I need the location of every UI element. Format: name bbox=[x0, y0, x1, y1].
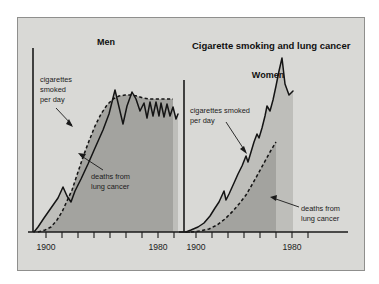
men-cigarettes-label-line2: smoked bbox=[40, 85, 66, 94]
women-deaths-label-line2: lung cancer bbox=[301, 214, 340, 223]
men-tick-label-1900: 1900 bbox=[36, 242, 55, 252]
figure-root: 1900 1980 Men cigarettes smoked per day … bbox=[0, 0, 379, 284]
chart-canvas: 1900 1980 Men cigarettes smoked per day … bbox=[18, 18, 366, 272]
women-tick-label-1980: 1980 bbox=[282, 242, 301, 252]
women-tick-label-1900: 1900 bbox=[186, 242, 205, 252]
men-x-ticks bbox=[46, 232, 174, 238]
men-deaths-label-line1: deaths from bbox=[91, 172, 130, 181]
women-x-ticks bbox=[196, 232, 308, 238]
women-cigarettes-leader bbox=[226, 122, 245, 151]
men-chart-group: 1900 1980 Men cigarettes smoked per day … bbox=[28, 37, 190, 252]
men-tick-label-1980: 1980 bbox=[148, 242, 167, 252]
women-cigarettes-label-line2: per day bbox=[190, 116, 215, 125]
men-chart-title: Men bbox=[97, 37, 115, 47]
chart-panel: 1900 1980 Men cigarettes smoked per day … bbox=[17, 17, 365, 271]
women-deaths-label-line1: deaths from bbox=[301, 204, 340, 213]
men-deaths-label-line2: lung cancer bbox=[91, 182, 130, 191]
men-cigarettes-label-line1: cigarettes bbox=[40, 75, 72, 84]
women-cigarettes-arrowhead bbox=[240, 146, 247, 154]
women-cigarettes-label-line1: cigarettes smoked bbox=[190, 106, 250, 115]
men-cigarettes-label-line3: per day bbox=[40, 95, 65, 104]
figure-title: Cigarette smoking and lung cancer bbox=[192, 40, 351, 51]
women-chart-group: 1900 1980 Women cigarettes smoked per da… bbox=[179, 58, 348, 252]
women-chart-title: Women bbox=[252, 70, 284, 80]
